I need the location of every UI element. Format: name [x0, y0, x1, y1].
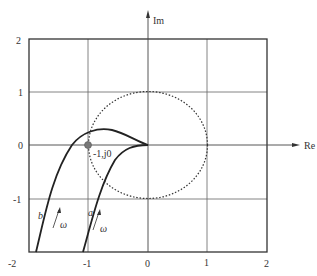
im-axis-label: Im [153, 15, 164, 26]
x-tick-2: 2 [264, 258, 269, 269]
x-tick-neg1: -1 [83, 258, 91, 269]
omega-b-label: ω [60, 219, 67, 230]
im-arrow-icon [146, 10, 150, 18]
critical-point-marker [85, 142, 92, 149]
x-tick-neg2: -2 [8, 258, 16, 269]
curve-a-label: a [88, 207, 93, 218]
x-tick-0: 0 [145, 258, 150, 269]
y-tick-0: 0 [18, 140, 23, 151]
y-tick-1: 1 [18, 87, 23, 98]
x-tick-1: 1 [204, 257, 209, 268]
critical-point-label: -1,j0 [93, 148, 112, 159]
omega-arrowhead-b-icon [57, 207, 61, 213]
nyquist-diagram: Im Re 2 1 0 -1 -2 -1 0 1 2 -1,j0 b ω a ω [0, 0, 317, 276]
y-tick-neg1: -1 [13, 194, 21, 205]
axes [29, 14, 296, 252]
curve-b-label: b [38, 210, 43, 221]
curve-a [83, 145, 148, 252]
re-arrow-icon [292, 143, 300, 147]
y-tick-2: 2 [16, 35, 21, 46]
re-axis-label: Re [304, 140, 316, 151]
omega-arrowhead-a-icon [97, 209, 101, 215]
omega-a-label: ω [100, 223, 107, 234]
